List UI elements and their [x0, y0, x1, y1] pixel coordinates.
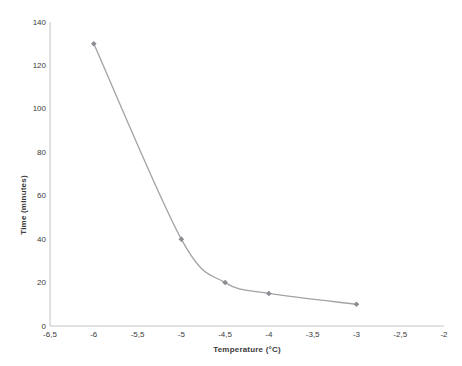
x-tick-label: -5	[178, 330, 186, 339]
line-chart-canvas: 020406080100120140-6,5-6-5,5-5-4,5-4-3,5…	[0, 0, 462, 366]
x-tick-label: -2,5	[393, 330, 407, 339]
x-tick-label: -6,5	[43, 330, 57, 339]
y-tick-label: 40	[37, 235, 46, 244]
series-line	[94, 44, 357, 305]
x-tick-label: -3,5	[306, 330, 320, 339]
y-tick-label: 100	[33, 104, 47, 113]
x-tick-label: -2	[440, 330, 448, 339]
y-tick-label: 140	[33, 18, 47, 27]
x-tick-label: -3	[353, 330, 361, 339]
x-tick-label: -4	[265, 330, 273, 339]
y-axis-title: Time (minutes)	[19, 145, 28, 265]
x-tick-label: -4,5	[218, 330, 232, 339]
data-point-marker	[179, 236, 185, 242]
x-axis-title: Temperature (°C)	[50, 345, 444, 354]
data-point-marker	[91, 41, 97, 47]
y-tick-label: 120	[33, 61, 47, 70]
y-tick-label: 20	[37, 278, 46, 287]
x-tick-label: -5,5	[131, 330, 145, 339]
data-point-marker	[354, 301, 360, 307]
y-tick-label: 60	[37, 191, 46, 200]
chart-figure: 020406080100120140-6,5-6-5,5-5-4,5-4-3,5…	[0, 0, 462, 366]
y-tick-label: 80	[37, 148, 46, 157]
data-point-marker	[222, 280, 228, 286]
x-tick-label: -6	[90, 330, 98, 339]
data-point-marker	[266, 291, 272, 297]
